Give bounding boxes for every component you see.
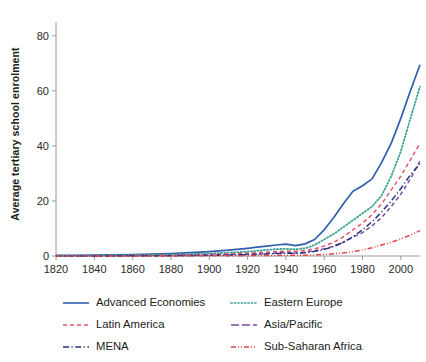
x-axis-tick-label: 1940 (274, 263, 298, 275)
legend-label-sub-saharan-africa: Sub-Saharan Africa (264, 341, 362, 352)
series-line-advanced-economies (56, 65, 420, 256)
series-line-eastern-europe (56, 87, 420, 256)
chart-figure: Average tertiary school enrolment 020406… (0, 0, 426, 362)
series-line-mena (56, 164, 420, 256)
legend-item-asia-pacific[interactable]: Asia/Pacific (230, 315, 420, 335)
y-axis-tick-label: 80 (37, 30, 49, 42)
x-axis-tick-label: 1960 (312, 263, 336, 275)
legend-item-advanced-economies[interactable]: Advanced Economies (62, 293, 230, 313)
legend-swatch-mena (62, 341, 90, 353)
y-axis-title: Average tertiary school enrolment (2, 0, 28, 268)
line-chart-svg: 0204060801820184018601880190019201940196… (28, 8, 426, 290)
legend-label-latin-america: Latin America (96, 319, 164, 330)
legend-item-eastern-europe[interactable]: Eastern Europe (230, 293, 420, 313)
x-axis-tick-label: 1900 (197, 263, 221, 275)
chart-legend: Advanced Economies Eastern Europe Latin … (62, 292, 422, 358)
x-axis-tick-label: 1980 (350, 263, 374, 275)
plot-area: 0204060801820184018601880190019201940196… (28, 8, 426, 290)
legend-item-sub-saharan-africa[interactable]: Sub-Saharan Africa (230, 337, 420, 357)
legend-swatch-eastern-europe (230, 297, 258, 309)
legend-item-latin-america[interactable]: Latin America (62, 315, 230, 335)
y-axis-title-label: Average tertiary school enrolment (9, 47, 21, 220)
y-axis-tick-label: 40 (37, 140, 49, 152)
legend-swatch-asia-pacific (230, 319, 258, 331)
legend-label-mena: MENA (96, 341, 129, 352)
y-axis-tick-label: 60 (37, 85, 49, 97)
x-axis-tick-label: 1820 (44, 263, 68, 275)
legend-swatch-advanced-economies (62, 297, 90, 309)
y-axis-tick-label: 0 (43, 250, 49, 262)
legend-label-eastern-europe: Eastern Europe (264, 297, 343, 308)
x-axis-tick-label: 2000 (389, 263, 413, 275)
legend-swatch-sub-saharan-africa (230, 341, 258, 353)
x-axis-tick-label: 1920 (235, 263, 259, 275)
x-axis-tick-label: 1880 (159, 263, 183, 275)
series-line-asia-pacific (56, 161, 420, 256)
legend-item-mena[interactable]: MENA (62, 337, 230, 357)
legend-label-asia-pacific: Asia/Pacific (264, 319, 322, 330)
series-line-latin-america (56, 143, 420, 256)
y-axis-tick-label: 20 (37, 195, 49, 207)
x-axis-tick-label: 1860 (120, 263, 144, 275)
legend-swatch-latin-america (62, 319, 90, 331)
x-axis-tick-label: 1840 (82, 263, 106, 275)
legend-label-advanced-economies: Advanced Economies (96, 297, 205, 308)
